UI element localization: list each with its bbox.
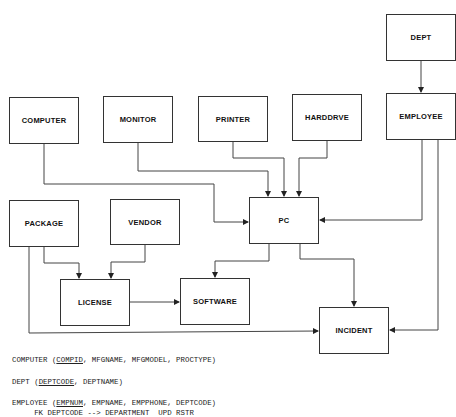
primary-key: COMPID xyxy=(56,356,83,364)
line-pc-software xyxy=(215,244,269,277)
entity-label: HARDDRVE xyxy=(305,113,349,122)
line-employee-incident xyxy=(390,140,438,330)
entity-computer: COMPUTER xyxy=(9,97,79,144)
entity-label: PRINTER xyxy=(216,115,250,124)
line-monitor-pc xyxy=(138,143,268,196)
entity-label: EMPLOYEE xyxy=(399,112,442,121)
line-harddrve-pc xyxy=(299,141,327,196)
entity-label: PC xyxy=(279,216,290,225)
primary-key: EMPNUM xyxy=(56,399,83,407)
entity-vendor: VENDOR xyxy=(110,199,180,245)
entity-label: PACKAGE xyxy=(25,219,63,228)
entity-label: SOFTWARE xyxy=(193,297,237,306)
schema-employee-fk: FK DEPTCODE --> DEPARTMENT UPD RSTR xyxy=(12,409,194,417)
line-pc-incident xyxy=(300,244,354,306)
line-employee-pc xyxy=(320,140,422,220)
entity-label: VENDOR xyxy=(128,218,161,227)
entity-label: DEPT xyxy=(411,33,432,42)
entity-dept: DEPT xyxy=(386,14,456,61)
entity-monitor: MONITOR xyxy=(103,96,173,143)
entity-incident: INCIDENT xyxy=(319,307,389,354)
entity-pc: PC xyxy=(249,197,319,244)
entity-software: SOFTWARE xyxy=(180,278,250,325)
primary-key: DEPTCODE xyxy=(39,378,74,386)
entity-employee: EMPLOYEE xyxy=(386,93,456,140)
entity-label: INCIDENT xyxy=(335,326,372,335)
schema-computer: COMPUTER (COMPID, MFGNAME, MFGMODEL, PRO… xyxy=(12,356,216,364)
schema-employee: EMPLOYEE (EMPNUM, EMPNAME, EMPPHONE, DEP… xyxy=(12,399,216,407)
entity-package: PACKAGE xyxy=(9,200,79,247)
entity-label: MONITOR xyxy=(120,115,157,124)
entity-label: COMPUTER xyxy=(22,116,67,125)
line-vendor-license xyxy=(111,245,145,278)
line-printer-pc xyxy=(233,142,284,196)
entity-printer: PRINTER xyxy=(198,96,268,142)
line-package-license xyxy=(44,247,79,278)
entity-label: LICENSE xyxy=(78,298,112,307)
entity-harddrve: HARDDRVE xyxy=(292,94,362,141)
schema-dept: DEPT (DEPTCODE, DEPTNAME) xyxy=(12,378,123,386)
entity-license: LICENSE xyxy=(60,279,130,326)
